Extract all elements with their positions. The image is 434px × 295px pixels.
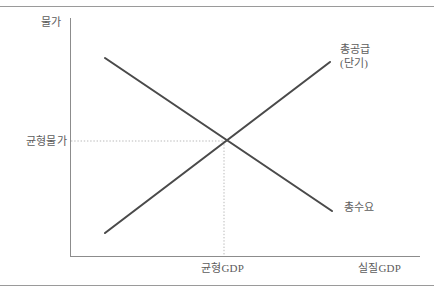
- y-axis-title: 물가: [41, 15, 61, 29]
- aggregate-supply-curve: [105, 62, 330, 233]
- aggregate-supply-curve-label: 총공급 (단기): [340, 42, 371, 70]
- aggregate-supply-label-note: (단기): [340, 56, 371, 70]
- y-axis-tick-label-equilibrium-price: 균형물가: [26, 134, 67, 148]
- aggregate-supply-label-main: 총공급: [340, 43, 371, 55]
- ad-as-chart-figure: 물가 균형물가 균형GDP 실질GDP 총공급 (단기) 총수요: [0, 0, 434, 295]
- aggregate-demand-curve: [105, 58, 332, 211]
- aggregate-demand-curve-label: 총수요: [344, 200, 375, 214]
- x-axis-tick-label-equilibrium-gdp: 균형GDP: [201, 261, 244, 275]
- x-axis-title: 실질GDP: [358, 261, 401, 275]
